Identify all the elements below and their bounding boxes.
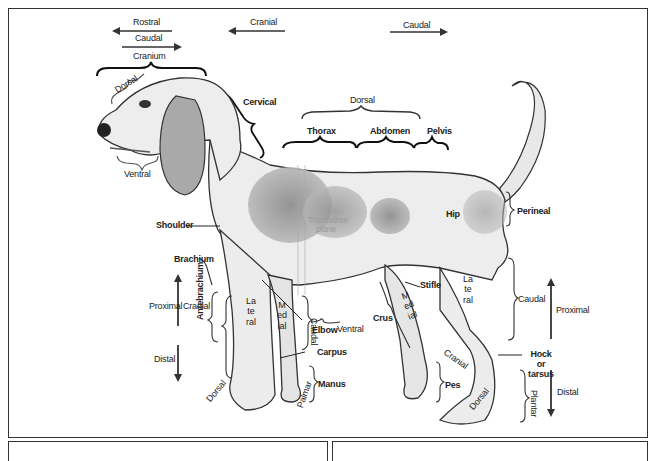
label-hock-or-tarsus: Hock or tarsus [526, 350, 556, 380]
label-cranium: Cranium [133, 52, 166, 61]
label-pes: Pes [445, 381, 460, 390]
label-pelvis: Pelvis [427, 127, 452, 136]
label-cervical: Cervical [243, 98, 276, 107]
label-dorsal-back: Dorsal [350, 96, 375, 105]
label-ventral-body: Ventral [337, 325, 364, 334]
label-distal-fore: Distal [154, 355, 175, 364]
label-caudal-top: Caudal [403, 21, 430, 30]
label-crus: Crus [373, 314, 393, 323]
label-lateral-fore: Lateral [246, 296, 256, 327]
label-caudal-fore: Caudal [309, 318, 318, 345]
label-shoulder: Shoulder [156, 221, 193, 230]
label-ventral-head: Ventral [124, 170, 151, 179]
label-thorax: Thorax [307, 127, 336, 136]
label-caudal-head: Caudal [135, 34, 162, 43]
label-carpus: Carpus [317, 348, 347, 357]
label-plantar: Plantar [529, 390, 538, 417]
label-caudal-hind: Caudal [518, 295, 545, 304]
label-cranial-top: Cranial [250, 18, 277, 27]
label-manus: Manus [318, 380, 346, 389]
label-perineal: Perineal [517, 207, 550, 216]
label-lateral-hind: Lateral [463, 274, 473, 305]
label-abdomen: Abdomen [370, 127, 410, 136]
label-stifle: Stifle [420, 281, 441, 290]
label-hip: Hip [446, 210, 460, 219]
label-brachium: Brachium [174, 255, 214, 264]
label-distal-hind: Distal [557, 388, 578, 397]
label-antebrachium: Antebrachium [196, 262, 205, 320]
label-rostral: Rostral [133, 18, 160, 27]
label-transverse-plane: Transverse plane [308, 216, 344, 233]
label-medial-fore: Medial [277, 300, 287, 331]
label-proximal-fore: Proximal [149, 302, 182, 311]
label-proximal-hind: Proximal [556, 306, 589, 315]
